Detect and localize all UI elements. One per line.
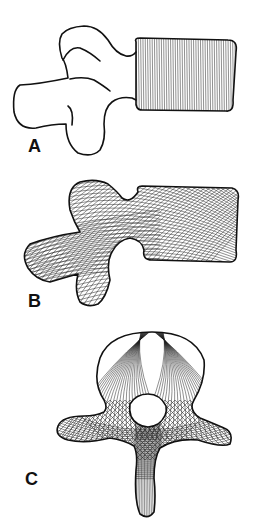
- panel-b: B: [0, 170, 257, 330]
- panel-c: C: [0, 330, 257, 531]
- panel-label-b: B: [28, 292, 41, 310]
- panel-label-c: C: [25, 470, 38, 488]
- vertebra-superior-c-drawing: [0, 330, 257, 531]
- panel-a: A: [0, 0, 257, 170]
- panel-label-a: A: [28, 137, 41, 155]
